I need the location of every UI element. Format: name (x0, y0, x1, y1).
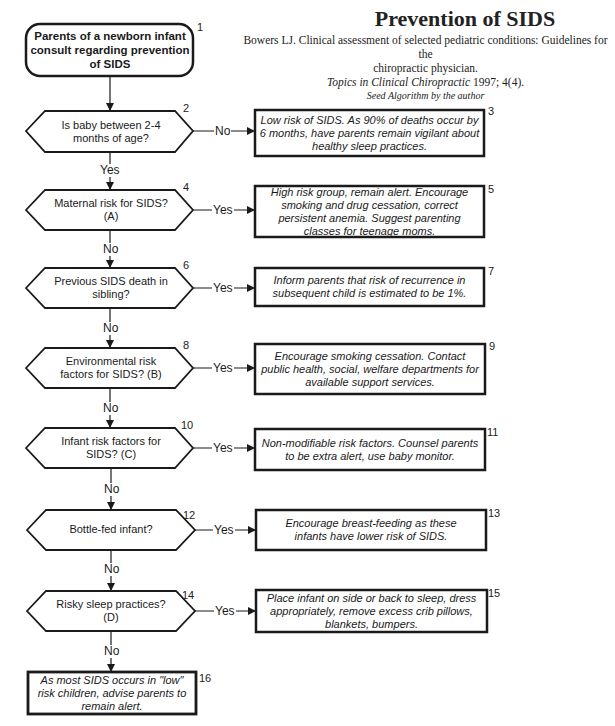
action-13-text: Encourage breast-feeding as these infant… (270, 512, 472, 548)
edge-label-12-14: No (103, 563, 120, 576)
edge-label-8-10: No (102, 402, 119, 415)
node-number-3: 3 (488, 105, 494, 117)
node-number-13: 13 (488, 507, 500, 519)
citation-line-1: Bowers LJ. Clinical assessment of select… (236, 33, 615, 61)
action-7-text: Inform parents that risk of recurrence i… (262, 270, 477, 304)
node-number-7: 7 (488, 265, 494, 277)
edge-label-10-11: Yes (212, 442, 234, 455)
journal-detail: 1997; 4(4). (470, 76, 524, 88)
node-number-8: 8 (183, 339, 189, 351)
node-number-15: 15 (488, 587, 500, 599)
node-number-9: 9 (489, 340, 495, 352)
decision-8-text: Environmental risk factors for SIDS? (B) (55, 350, 167, 386)
start-node-text: Parents of a newborn infant consult rega… (30, 26, 190, 74)
edge-label-8-9: Yes (212, 362, 234, 375)
action-11-text: Non-modifiable risk factors. Counsel par… (259, 431, 481, 468)
seed-note: Seed Algorithm by the author (236, 89, 615, 103)
decision-12-text: Bottle-fed infant? (55, 512, 167, 548)
edge-label-6-8: No (102, 322, 119, 335)
node-number-2: 2 (183, 102, 189, 114)
edge-label-10-12: No (103, 483, 120, 496)
decision-10-text: Infant risk factors for SIDS? (C) (55, 430, 167, 466)
edge-label-2-4: Yes (99, 164, 121, 177)
edge-label-2-3: No (214, 125, 231, 138)
action-9-text: Encourage smoking cessation. Contact pub… (259, 346, 481, 392)
node-number-5: 5 (488, 183, 494, 195)
decision-14-text: Risky sleep practices? (D) (55, 593, 167, 629)
decision-6-text: Previous SIDS death in sibling? (52, 270, 170, 306)
node-number-16: 16 (199, 672, 211, 684)
edge-label-14-15: Yes (214, 605, 236, 618)
node-number-10: 10 (181, 419, 193, 431)
action-3-text: Low risk of SIDS. As 90% of deaths occur… (259, 112, 480, 154)
node-number-6: 6 (183, 259, 189, 271)
edge-label-14-16: No (103, 645, 120, 658)
edge-label-6-7: Yes (212, 282, 234, 295)
end-16-text: As most SIDS occurs in "low" risk childr… (36, 674, 188, 712)
decision-4-text: Maternal risk for SIDS? (A) (52, 192, 170, 228)
edge-label-4-6: No (102, 243, 119, 256)
edge-label-4-5: Yes (212, 204, 234, 217)
node-number-4: 4 (183, 181, 189, 193)
node-number-11: 11 (487, 426, 498, 438)
action-15-text: Place infant on side or back to sleep, d… (260, 592, 483, 630)
citation: Bowers LJ. Clinical assessment of select… (236, 33, 615, 103)
node-number-14: 14 (182, 589, 194, 601)
node-number-12: 12 (183, 509, 195, 521)
citation-line-2: chiropractic physician. (236, 61, 615, 75)
decision-2-text: Is baby between 2-4 months of age? (52, 113, 170, 151)
page-title: Prevention of SIDS (330, 6, 600, 32)
journal-name: Topics in Clinical Chiropractic (327, 76, 470, 88)
citation-journal-line: Topics in Clinical Chiropractic 1997; 4(… (236, 75, 615, 89)
edge-label-12-13: Yes (213, 524, 235, 537)
node-number-1: 1 (197, 21, 203, 33)
action-5-text: High risk group, remain alert. Encourage… (259, 188, 480, 235)
